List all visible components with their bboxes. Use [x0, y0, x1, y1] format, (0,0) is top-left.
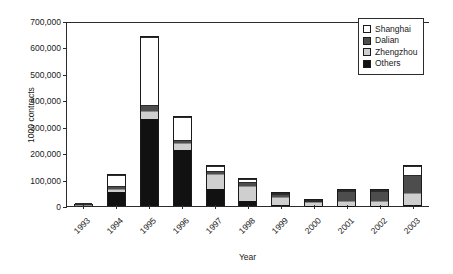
x-tick-mark: [182, 205, 183, 209]
x-tick-label: 1996: [170, 215, 190, 235]
bar-segment-dalian: [338, 191, 355, 201]
legend-item-dalian: Dalian: [363, 35, 418, 46]
legend-item-zhengzhou: Zhengzhou: [363, 47, 418, 58]
x-tick-mark: [380, 205, 381, 209]
x-tick-label: 2000: [302, 215, 322, 235]
stacked-bar: [271, 192, 290, 206]
bar-column: [67, 22, 100, 206]
bar-chart: 1000 contracts 0100,000200,000300,000400…: [0, 0, 453, 274]
x-tick-label: 1995: [137, 215, 157, 235]
y-tick-mark: [63, 48, 67, 49]
legend-swatch-zhengzhou: [363, 48, 371, 56]
y-tick-mark: [63, 22, 67, 23]
stacked-bar: [238, 178, 257, 206]
x-tick-mark: [314, 205, 315, 209]
y-axis-title: 1000 contracts: [26, 87, 36, 143]
bar-segment-others: [141, 119, 158, 206]
y-tick-mark: [63, 75, 67, 76]
bar-segment-zhengzhou: [141, 111, 158, 119]
legend-label-zhengzhou: Zhengzhou: [375, 48, 418, 57]
x-axis-title: Year: [66, 252, 429, 262]
chart-legend: Shanghai Dalian Zhengzhou Others: [358, 18, 424, 75]
bar-segment-shanghai: [108, 175, 125, 186]
bar-segment-zhengzhou: [239, 186, 256, 202]
y-tick-label: 700,000: [30, 17, 67, 27]
y-tick-label: 400,000: [30, 96, 67, 106]
bar-segment-zhengzhou: [174, 143, 191, 150]
legend-label-dalian: Dalian: [375, 36, 399, 45]
y-tick-mark: [63, 128, 67, 129]
stacked-bar: [403, 165, 422, 206]
x-tick-mark: [347, 205, 348, 209]
legend-label-shanghai: Shanghai: [375, 25, 411, 34]
y-tick-mark: [63, 154, 67, 155]
x-tick-label: 1998: [236, 215, 256, 235]
bar-segment-zhengzhou: [272, 197, 289, 206]
bar-column: [166, 22, 199, 206]
bar-segment-zhengzhou: [404, 193, 421, 205]
x-tick-mark: [116, 205, 117, 209]
bar-column: [265, 22, 298, 206]
bar-column: [298, 22, 331, 206]
legend-swatch-dalian: [363, 37, 371, 45]
x-tick-mark: [215, 205, 216, 209]
bar-segment-zhengzhou: [207, 174, 224, 189]
legend-item-others: Others: [363, 58, 418, 69]
y-tick-label: 500,000: [30, 70, 67, 80]
x-tick-label: 2001: [335, 215, 355, 235]
bar-segment-others: [174, 150, 191, 206]
x-tick-mark: [149, 205, 150, 209]
x-tick-label: 1994: [104, 215, 124, 235]
bar-column: [100, 22, 133, 206]
bar-segment-others: [108, 192, 125, 206]
x-axis-ticks: 1993199419951996199719981999200020012002…: [66, 209, 429, 249]
stacked-bar: [337, 189, 356, 206]
bar-segment-dalian: [404, 175, 421, 193]
stacked-bar: [206, 165, 225, 206]
y-tick-label: 600,000: [30, 43, 67, 53]
bar-segment-others: [207, 189, 224, 206]
x-tick-mark: [413, 205, 414, 209]
y-tick-mark: [63, 101, 67, 102]
bar-column: [199, 22, 232, 206]
x-tick-mark: [83, 205, 84, 209]
y-tick-label: 300,000: [30, 123, 67, 133]
bar-segment-shanghai: [141, 37, 158, 105]
y-tick-label: 100,000: [30, 176, 67, 186]
y-tick-label: 200,000: [30, 149, 67, 159]
legend-label-others: Others: [375, 59, 401, 68]
bar-column: [133, 22, 166, 206]
x-tick-label: 1993: [71, 215, 91, 235]
x-tick-label: 2002: [368, 215, 388, 235]
legend-swatch-others: [363, 60, 371, 68]
stacked-bar: [370, 189, 389, 206]
stacked-bar: [140, 36, 159, 206]
bar-segment-shanghai: [404, 166, 421, 175]
stacked-bar: [107, 174, 126, 206]
y-axis-label-wrap: 1000 contracts: [0, 22, 18, 207]
legend-swatch-shanghai: [363, 25, 371, 33]
x-tick-label: 2003: [401, 215, 421, 235]
bar-column: [232, 22, 265, 206]
y-tick-mark: [63, 207, 67, 208]
x-tick-label: 1997: [203, 215, 223, 235]
stacked-bar: [173, 116, 192, 206]
bar-segment-dalian: [371, 191, 388, 201]
y-tick-mark: [63, 181, 67, 182]
legend-item-shanghai: Shanghai: [363, 24, 418, 35]
x-tick-label: 1999: [269, 215, 289, 235]
x-tick-mark: [281, 205, 282, 209]
bar-segment-shanghai: [174, 117, 191, 140]
x-tick-mark: [248, 205, 249, 209]
